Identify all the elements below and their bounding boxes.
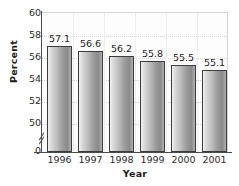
bar-group-2001: 55.1 — [202, 12, 227, 152]
x-tick-label-1996: 1996 — [42, 154, 77, 166]
bar-1999[interactable] — [140, 61, 165, 152]
bar-value-label-2001: 55.1 — [193, 58, 236, 68]
bar-1996[interactable] — [47, 46, 72, 152]
bars-layer: 57.1 56.6 56.2 55.8 55.5 55.1 — [42, 12, 228, 152]
y-tick-label-60: 60 — [17, 8, 41, 18]
y-tick-label-54: 54 — [17, 74, 41, 84]
bar-group-1996: 57.1 — [47, 12, 72, 152]
bar-group-2000: 55.5 — [171, 12, 196, 152]
bar-2000[interactable] — [171, 65, 196, 152]
x-tick-label-1997: 1997 — [73, 154, 108, 166]
bar-chart: Percent 60 58 56 54 52 50 0 57.1 56.6 56… — [0, 0, 239, 186]
y-tick-label-0: 0 — [17, 146, 41, 156]
y-tick-label-56: 56 — [17, 52, 41, 62]
x-tick-label-1999: 1999 — [135, 154, 170, 166]
bar-1998[interactable] — [109, 56, 134, 152]
x-tick-label-1998: 1998 — [104, 154, 139, 166]
bar-1997[interactable] — [78, 51, 103, 152]
bar-group-1998: 56.2 — [109, 12, 134, 152]
x-axis-tick-labels: 1996 1997 1998 1999 2000 2001 — [42, 154, 228, 167]
bar-2001[interactable] — [202, 70, 227, 152]
x-tick-label-2000: 2000 — [166, 154, 201, 166]
bar-group-1999: 55.8 — [140, 12, 165, 152]
x-axis-title: Year — [40, 168, 230, 179]
y-tick-label-52: 52 — [17, 96, 41, 106]
axis-break-icon — [36, 131, 47, 145]
x-tick-label-2001: 2001 — [197, 154, 232, 166]
bar-group-1997: 56.6 — [78, 12, 103, 152]
x-axis-line — [34, 152, 232, 153]
y-tick-label-50: 50 — [17, 118, 41, 128]
